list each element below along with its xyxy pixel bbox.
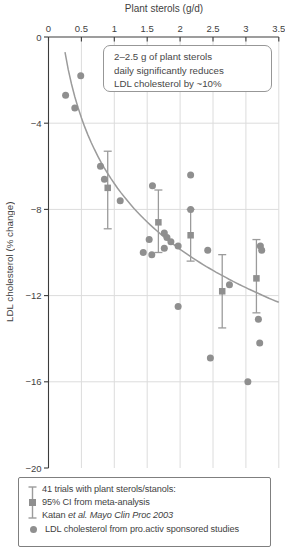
chart-figure: Plant sterols (g/d) 00.511.522.533.50−4−… [0,0,285,552]
svg-text:1: 1 [112,23,117,34]
annotation-line-1: 2–2.5 g of plant sterols [114,50,267,64]
annotation-box: 2–2.5 g of plant sterols daily significa… [103,45,272,92]
proactiv-circles [62,72,265,385]
circle-marker-icon [30,526,37,533]
legend-meta-entry: 41 trials with plant sterols/stanols: 95… [27,483,266,521]
svg-text:2: 2 [177,23,182,34]
legend-circle-entry: LDL cholesterol from pro.activ sponsored… [27,524,266,535]
svg-text:0.5: 0.5 [75,23,88,34]
svg-text:0: 0 [46,23,51,34]
svg-text:−12: −12 [25,290,41,301]
ci-errorbar-icon [27,484,42,522]
gridlines [49,37,279,468]
svg-text:3: 3 [243,23,248,34]
x-tick-labels: 00.511.522.533.5 [46,23,285,34]
legend-meta-line-3: Katan et al. Mayo Clin Proc 2003 [42,509,176,522]
y-axis-title: LDL cholesterol (% change) [3,182,17,342]
svg-text:0: 0 [36,32,41,43]
svg-text:3.5: 3.5 [272,23,285,34]
annotation-line-3: LDL cholesterol by ~10% [114,77,267,91]
svg-text:−16: −16 [25,376,41,387]
svg-text:1.5: 1.5 [141,23,154,34]
svg-text:2.5: 2.5 [206,23,219,34]
annotation-line-2: daily significantly reduces [114,64,267,78]
legend-meta-line-1: 41 trials with plant sterols/stanols: [42,483,176,496]
svg-text:−20: −20 [25,463,41,474]
legend-box: 41 trials with plant sterols/stanols: 95… [18,477,271,547]
legend-circle-line: LDL cholesterol from pro.activ sponsored… [45,524,239,535]
legend-meta-line-2: 95% CI from meta-analysis [42,496,176,509]
y-tick-labels: 0−4−8−12−16−20 [25,32,41,474]
svg-text:−8: −8 [31,204,42,215]
meta-analysis-errorbars [104,151,261,328]
svg-text:−4: −4 [31,118,42,129]
